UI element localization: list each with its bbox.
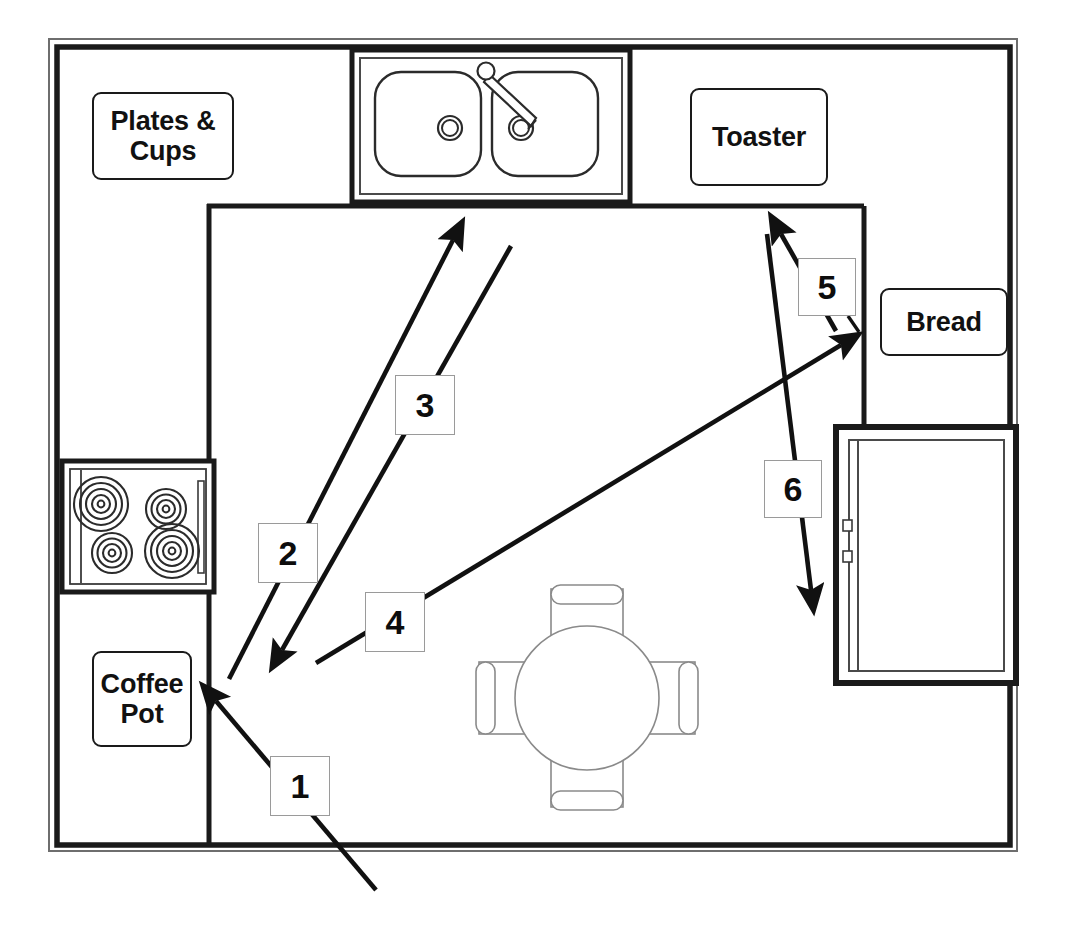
item-label-toaster: Toaster xyxy=(690,88,828,186)
fridge-handle-upper xyxy=(843,520,852,531)
item-label-bread: Bread xyxy=(880,288,1008,356)
step-box-2: 2 xyxy=(258,523,318,583)
item-label-coffee-pot: Coffee Pot xyxy=(92,651,192,747)
refrigerator xyxy=(836,427,1016,683)
stove-cooktop xyxy=(62,461,214,592)
kitchen-floor-plan-diagram: Plates & Cups Toaster Bread Coffee Pot 1… xyxy=(0,0,1067,927)
item-label-plates-cups: Plates & Cups xyxy=(92,92,234,180)
step-box-6: 6 xyxy=(764,460,822,518)
step-box-1: 1 xyxy=(270,756,330,816)
fridge-handle-lower xyxy=(843,551,852,562)
step-box-3: 3 xyxy=(395,375,455,435)
step-box-5: 5 xyxy=(798,258,856,316)
table-top xyxy=(515,626,659,770)
double-basin-sink xyxy=(352,50,630,202)
step-box-4: 4 xyxy=(365,592,425,652)
